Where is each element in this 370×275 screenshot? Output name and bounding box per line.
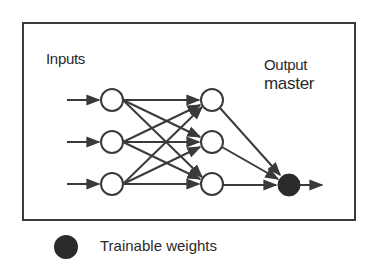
trainable-weights-legend-icon xyxy=(54,235,78,259)
neural-network-diagram xyxy=(0,0,370,275)
hidden-node-1 xyxy=(201,89,223,111)
input-node-3 xyxy=(101,173,123,195)
output-node-trainable xyxy=(278,174,300,196)
hidden-node-2 xyxy=(201,131,223,153)
input-node-2 xyxy=(101,131,123,153)
legend-label: Trainable weights xyxy=(100,237,217,254)
input-node-1 xyxy=(101,89,123,111)
hidden-node-3 xyxy=(201,173,223,195)
